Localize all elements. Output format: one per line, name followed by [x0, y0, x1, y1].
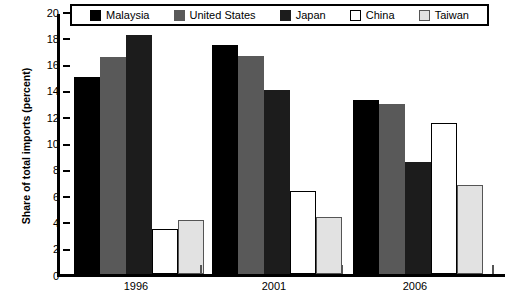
bar-malaysia-2006 [353, 100, 379, 274]
y-tick-label: 4 [53, 218, 59, 229]
bar-chart: MalaysiaUnited StatesJapanChinaTaiwan Sh… [0, 0, 511, 304]
bar-malaysia-2001 [212, 45, 238, 274]
bar-group-2006 [353, 14, 483, 274]
legend-label-malaysia: Malaysia [106, 10, 149, 21]
bar-united-states-2006 [379, 104, 405, 274]
bar-china-2001 [290, 191, 316, 274]
bar-group-1996 [74, 14, 204, 274]
y-axis-title: Share of total imports (percent) [20, 26, 32, 266]
legend-item-taiwan: Taiwan [419, 10, 469, 21]
y-tick-label: 16 [47, 60, 59, 71]
x-axis-separator-tick-1-icon [200, 265, 202, 274]
legend-label-taiwan: Taiwan [435, 10, 469, 21]
legend-label-china: China [366, 10, 395, 21]
bar-taiwan-2006 [457, 185, 483, 274]
bar-taiwan-2001 [316, 217, 342, 274]
plot-area: 02468101214161820 [57, 14, 505, 277]
legend-swatch-china-icon [350, 10, 361, 21]
x-axis-separator-tick-3-icon [492, 265, 494, 274]
legend-item-malaysia: Malaysia [90, 10, 149, 21]
y-tick-mark-icon [63, 275, 70, 277]
x-axis-separator-tick-2-icon [341, 265, 343, 274]
bar-china-1996 [152, 229, 178, 274]
bar-group-2001 [212, 14, 342, 274]
bar-china-2006 [431, 123, 457, 274]
bar-japan-1996 [126, 35, 152, 274]
y-tick-label: 14 [47, 86, 59, 97]
legend-label-japan: Japan [296, 10, 326, 21]
y-tick-label: 8 [53, 165, 59, 176]
y-tick-label: 18 [47, 34, 59, 45]
legend-item-china: China [350, 10, 395, 21]
bar-united-states-1996 [100, 57, 126, 274]
x-axis-label-2001: 2001 [244, 281, 304, 292]
legend-swatch-japan-icon [280, 10, 291, 21]
legend-swatch-united-states-icon [174, 10, 185, 21]
legend-swatch-malaysia-icon [90, 10, 101, 21]
x-axis-label-1996: 1996 [106, 281, 166, 292]
y-tick-label: 6 [53, 192, 59, 203]
y-tick-label: 10 [47, 139, 59, 150]
legend-item-japan: Japan [280, 10, 326, 21]
bar-japan-2001 [264, 90, 290, 274]
bar-japan-2006 [405, 162, 431, 274]
y-tick-label: 12 [47, 113, 59, 124]
y-tick-label: 20 [47, 8, 59, 19]
y-tick-label: 2 [53, 244, 59, 255]
bar-malaysia-1996 [74, 77, 100, 274]
legend-item-united-states: United States [174, 10, 256, 21]
chart-legend: MalaysiaUnited StatesJapanChinaTaiwan [70, 4, 489, 26]
legend-label-united-states: United States [190, 10, 256, 21]
legend-swatch-taiwan-icon [419, 10, 430, 21]
x-axis-label-2006: 2006 [385, 281, 445, 292]
bar-united-states-2001 [238, 56, 264, 274]
y-tick-label: 0 [53, 271, 59, 282]
bar-series-container [60, 14, 505, 274]
